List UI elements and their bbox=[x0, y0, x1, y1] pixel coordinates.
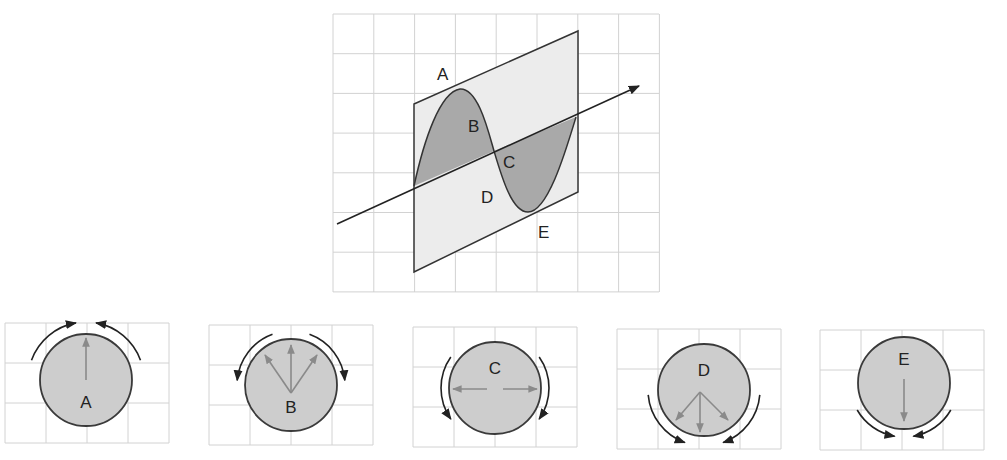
particle-circle bbox=[658, 344, 750, 436]
panel-label: C bbox=[489, 359, 501, 378]
label-C: C bbox=[503, 153, 515, 172]
label-E: E bbox=[538, 223, 549, 242]
label-D: D bbox=[481, 188, 493, 207]
diagram-canvas: A B C D E ABCDE bbox=[0, 0, 1007, 460]
panel-label: A bbox=[80, 393, 92, 412]
particle-circle bbox=[449, 342, 541, 434]
panel-label: E bbox=[898, 350, 909, 369]
rotation-panels: ABCDE bbox=[5, 323, 984, 450]
panel-A: A bbox=[5, 323, 169, 443]
panel-D: D bbox=[617, 329, 781, 449]
label-B: B bbox=[468, 117, 479, 136]
panel-E: E bbox=[820, 330, 984, 450]
panel-label: B bbox=[285, 398, 296, 417]
label-A: A bbox=[437, 65, 449, 84]
panel-C: C bbox=[413, 327, 577, 447]
panel-label: D bbox=[698, 361, 710, 380]
panel-B: B bbox=[209, 325, 373, 445]
